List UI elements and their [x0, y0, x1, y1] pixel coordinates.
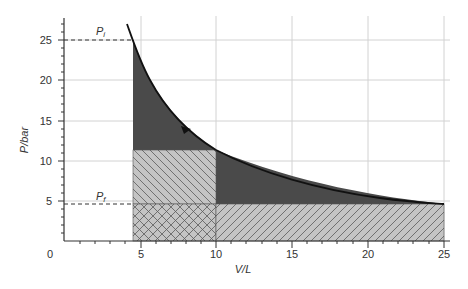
y-tick-15: 15: [40, 115, 52, 127]
y-tick-5: 5: [46, 195, 52, 207]
y-ticks: [58, 24, 64, 233]
pf-label: Pf: [96, 190, 106, 204]
pv-chart: 25 20 15 10 5 0 5 10 15 20 25 V/L P/bar …: [0, 0, 468, 289]
x-axis-title: V/L: [235, 263, 252, 275]
y-tick-10: 10: [40, 155, 52, 167]
x-tick-15: 15: [286, 248, 298, 260]
x-tick-10: 10: [210, 248, 222, 260]
x-ticks: [80, 241, 444, 248]
pi-label: Pi: [96, 25, 105, 39]
y-tick-25: 25: [40, 34, 52, 46]
x-tick-25: 25: [438, 248, 450, 260]
lower-left-crosshatch: [133, 204, 216, 241]
dark-region-upper: [133, 40, 216, 150]
lower-right-hatch: [216, 204, 444, 241]
x-tick-5: 5: [138, 248, 144, 260]
x-tick-20: 20: [362, 248, 374, 260]
upper-left-hatch: [133, 150, 216, 204]
origin-label: 0: [47, 248, 53, 260]
y-axis-title: P/bar: [18, 126, 30, 154]
y-tick-20: 20: [40, 74, 52, 86]
